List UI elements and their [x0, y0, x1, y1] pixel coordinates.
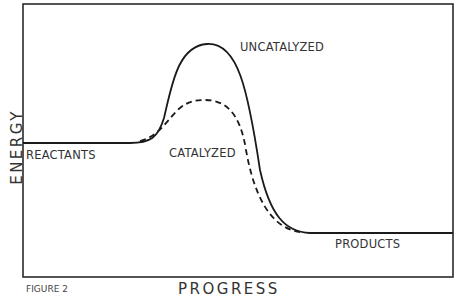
figure-caption: FIGURE 2 — [26, 284, 68, 294]
reactants-label: REACTANTS — [26, 148, 96, 162]
products-label: PRODUCTS — [335, 237, 400, 251]
x-axis-label: PROGRESS — [178, 280, 280, 297]
catalyzed-label: CATALYZED — [169, 146, 236, 160]
y-axis-label: ENERGY — [8, 102, 26, 192]
uncatalyzed-label: UNCATALYZED — [240, 40, 324, 54]
uncatalyzed-curve — [23, 44, 453, 233]
